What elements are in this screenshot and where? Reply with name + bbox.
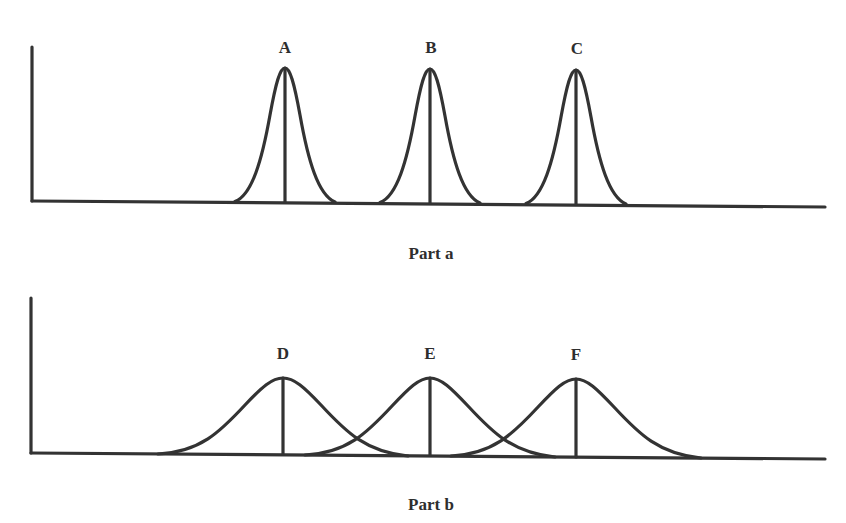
- peak-a-label: A: [279, 38, 292, 57]
- peak-b-label: B: [425, 38, 436, 57]
- peak-d-label: D: [277, 344, 289, 363]
- distribution-diagram: A B C D E F Part a Part b: [0, 0, 846, 523]
- peak-c-label: C: [571, 39, 583, 58]
- part-a-caption: Part a: [409, 244, 454, 263]
- part-b-x-axis: [31, 453, 825, 459]
- part-b-caption: Part b: [408, 495, 454, 514]
- peak-f-label: F: [571, 345, 581, 364]
- peak-e-label: E: [424, 344, 435, 363]
